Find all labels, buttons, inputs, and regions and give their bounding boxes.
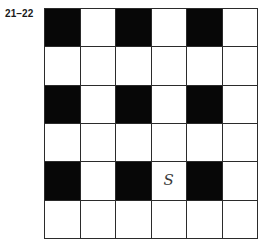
- figure-root: 21–22 S: [0, 0, 270, 245]
- grid-cell[interactable]: [116, 201, 152, 239]
- grid-cell[interactable]: [223, 124, 259, 162]
- grid-cell[interactable]: [45, 47, 81, 85]
- grid-cell[interactable]: [45, 86, 81, 124]
- grid-cell[interactable]: [223, 86, 259, 124]
- grid-cell[interactable]: [223, 162, 259, 200]
- grid-cell[interactable]: [187, 201, 223, 239]
- grid-cell[interactable]: [45, 124, 81, 162]
- grid-cell[interactable]: [152, 86, 188, 124]
- grid-cell[interactable]: [116, 162, 152, 200]
- grid-cell[interactable]: [187, 124, 223, 162]
- grid-cell[interactable]: [45, 162, 81, 200]
- grid-cell[interactable]: [187, 47, 223, 85]
- grid-cell[interactable]: [81, 162, 117, 200]
- grid-cell[interactable]: [81, 47, 117, 85]
- grid-cell[interactable]: [81, 86, 117, 124]
- grid-cell[interactable]: [81, 124, 117, 162]
- grid-cell[interactable]: [152, 9, 188, 47]
- grid-cell[interactable]: [187, 9, 223, 47]
- grid-cell[interactable]: [223, 201, 259, 239]
- grid-cell[interactable]: S: [152, 162, 188, 200]
- checkerboard-grid: S: [44, 8, 258, 239]
- cell-mark-letter: S: [164, 173, 174, 188]
- grid-cell[interactable]: [187, 86, 223, 124]
- grid-cell[interactable]: [116, 9, 152, 47]
- grid-cell[interactable]: [116, 86, 152, 124]
- grid-cell[interactable]: [81, 9, 117, 47]
- grid-cell[interactable]: [45, 9, 81, 47]
- grid-cell[interactable]: [152, 201, 188, 239]
- grid-cell[interactable]: [223, 9, 259, 47]
- grid-cell[interactable]: [152, 47, 188, 85]
- grid-cell[interactable]: [116, 47, 152, 85]
- grid-cell[interactable]: [152, 124, 188, 162]
- grid-cell[interactable]: [45, 201, 81, 239]
- figure-label: 21–22: [5, 7, 33, 20]
- grid-cell[interactable]: [223, 47, 259, 85]
- grid-cell[interactable]: [81, 201, 117, 239]
- grid-cell[interactable]: [116, 124, 152, 162]
- grid-cell[interactable]: [187, 162, 223, 200]
